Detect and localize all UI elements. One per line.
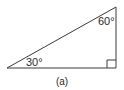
figure-caption: (a) xyxy=(56,76,68,87)
angle-label-30: 30° xyxy=(26,56,43,68)
triangle-figure: 60° 30° (a) xyxy=(0,0,124,90)
right-angle-marker xyxy=(107,60,116,68)
angle-label-60: 60° xyxy=(98,15,115,27)
triangle-diagram: 60° 30° (a) xyxy=(0,0,124,90)
